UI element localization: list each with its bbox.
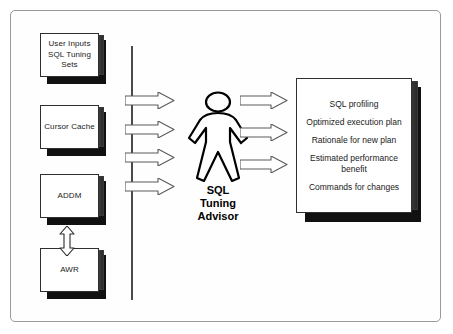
box-face: Cursor Cache — [40, 105, 99, 149]
input-arrow-2 — [125, 121, 175, 138]
source-box-user-inputs: User Inputs SQL Tuning Sets — [40, 33, 99, 77]
box-face: User Inputs SQL Tuning Sets — [40, 33, 99, 77]
advisor-label: SQL Tuning Advisor — [187, 184, 249, 223]
input-arrow-4 — [125, 178, 175, 195]
source-box-addm: ADDM — [40, 174, 99, 218]
advisor-output-panel: SQL profiling Optimized execution plan R… — [296, 78, 412, 213]
input-arrow-3 — [125, 149, 175, 166]
box-face: ADDM — [40, 174, 99, 218]
output-item-optimized-execution-plan: Optimized execution plan — [306, 117, 401, 128]
source-label-addm: ADDM — [55, 191, 85, 202]
output-arrow-3 — [240, 156, 288, 173]
input-arrow-1 — [125, 92, 175, 109]
diagram-root: User Inputs SQL Tuning Sets Cursor Cache… — [0, 0, 453, 334]
source-label-cursor-cache: Cursor Cache — [41, 122, 98, 133]
source-box-cursor-cache: Cursor Cache — [40, 105, 99, 149]
vertical-divider — [131, 46, 133, 300]
output-item-sql-profiling: SQL profiling — [330, 99, 379, 110]
source-label-awr: AWR — [57, 265, 82, 276]
output-item-commands-for-changes: Commands for changes — [309, 182, 399, 193]
source-label-user-inputs: User Inputs SQL Tuning Sets — [45, 39, 94, 71]
output-arrow-1 — [240, 92, 288, 109]
output-item-rationale-for-new-plan: Rationale for new plan — [312, 135, 397, 146]
output-arrow-2 — [240, 124, 288, 141]
addm-awr-bidirectional-arrow — [59, 226, 75, 256]
output-item-estimated-performance-benefit: Estimated performance benefit — [310, 153, 398, 175]
panel-face: SQL profiling Optimized execution plan R… — [296, 78, 412, 213]
